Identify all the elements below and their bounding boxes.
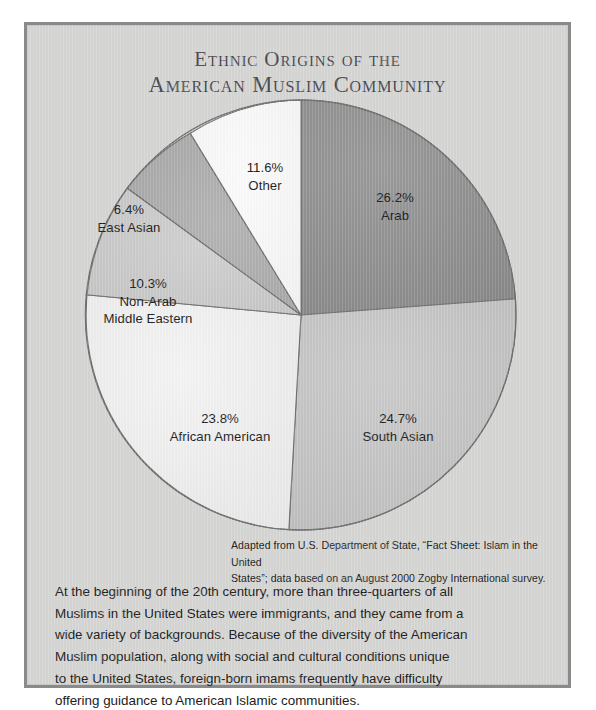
source-note: Adapted from U.S. Department of State, “…	[231, 537, 561, 587]
pie-slice-south-asian[interactable]	[288, 299, 515, 530]
source-note-line-1: Adapted from U.S. Department of State, “…	[231, 537, 561, 570]
pie-slice-arab[interactable]	[301, 100, 515, 315]
body-line-4: Muslim population, along with social and…	[55, 646, 555, 668]
body-paragraph: At the beginning of the 20th century, mo…	[55, 581, 555, 710]
body-line-6: offering guidance to American Islamic co…	[55, 690, 555, 710]
body-line-2: Muslims in the United States were immigr…	[55, 603, 555, 625]
body-line-3: wide variety of backgrounds. Because of …	[55, 624, 555, 646]
body-line-1: At the beginning of the 20th century, mo…	[55, 581, 555, 603]
body-line-5: to the United States, foreign-born imams…	[55, 668, 555, 690]
pie-slice-african-american[interactable]	[85, 295, 301, 530]
pie-chart-svg	[83, 97, 519, 533]
figure-panel: Ethnic Origins of the American Muslim Co…	[24, 22, 571, 688]
